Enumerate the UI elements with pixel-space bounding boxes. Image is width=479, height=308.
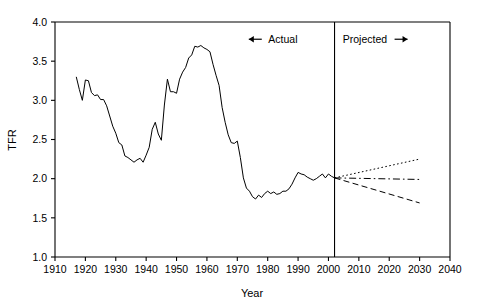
y-tick-label: 2.0	[32, 172, 47, 184]
x-tick-label: 1980	[256, 263, 280, 275]
x-tick-label: 2010	[347, 263, 371, 275]
y-tick-label: 1.0	[32, 251, 47, 263]
x-tick-label: 1940	[134, 263, 158, 275]
y-tick-label: 3.0	[32, 94, 47, 106]
tfr-line-chart: 1.01.52.02.53.03.54.0 191019201930194019…	[0, 0, 479, 308]
x-tick-label: 1910	[43, 263, 67, 275]
y-tick-label: 2.5	[32, 133, 47, 145]
x-tick-label: 1950	[165, 263, 189, 275]
x-axis-title: Year	[241, 287, 264, 299]
actual-label: Actual	[268, 33, 297, 45]
x-tick-label: 2030	[408, 263, 432, 275]
x-tick-label: 2020	[378, 263, 402, 275]
x-tick-label: 2000	[317, 263, 341, 275]
y-tick-label: 4.0	[32, 16, 47, 28]
y-tick-label: 1.5	[32, 212, 47, 224]
x-tick-label: 1920	[74, 263, 98, 275]
y-axis-title: TFR	[6, 129, 18, 150]
x-tick-label: 1970	[226, 263, 250, 275]
x-tick-label: 2040	[438, 263, 462, 275]
x-tick-label: 1990	[286, 263, 310, 275]
projected-label: Projected	[343, 33, 388, 45]
x-tick-label: 1960	[195, 263, 219, 275]
x-tick-label: 1930	[104, 263, 128, 275]
chart-container: 1.01.52.02.53.03.54.0 191019201930194019…	[0, 0, 479, 308]
y-tick-label: 3.5	[32, 55, 47, 67]
